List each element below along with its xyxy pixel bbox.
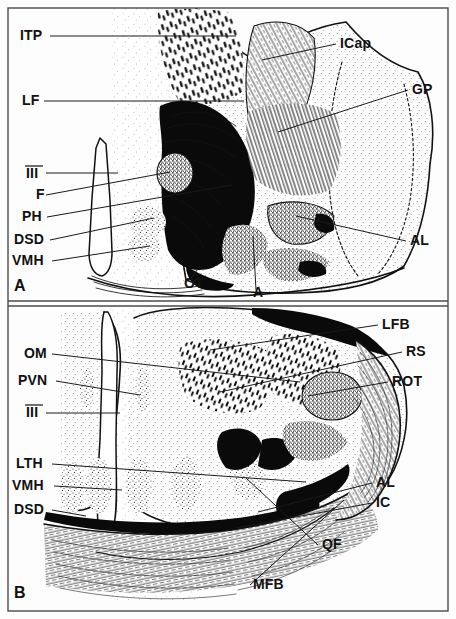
label-rs: RS (406, 343, 426, 359)
label-lfb: LFB (382, 316, 410, 332)
label-a-arcuate: A (253, 284, 263, 300)
panel-b-lth-medial (171, 456, 201, 512)
label-qf: QF (322, 536, 342, 552)
panel-label-a: A (14, 277, 26, 294)
panel-a-lateral-fiber-fan (246, 103, 341, 195)
label-dsd-a: DSD (14, 231, 44, 247)
label-dsd-b: DSD (14, 501, 44, 517)
label-ot: OT (184, 275, 204, 291)
neuroanatomy-figure: ITP LF III F PH DSD VMH ICap GP AL OT A … (0, 0, 456, 619)
label-icap: ICap (340, 35, 371, 51)
label-iii-b: III (26, 404, 38, 420)
label-lth: LTH (16, 455, 43, 471)
label-al-a: AL (410, 232, 429, 248)
panel-b-pvn-left (80, 368, 94, 408)
label-vmh-a: VMH (12, 252, 44, 268)
panel-b-pvn-right (135, 368, 151, 412)
label-ph: PH (22, 208, 42, 224)
label-gp: GP (412, 81, 433, 97)
label-om: OM (24, 345, 47, 361)
label-pvn: PVN (18, 372, 47, 388)
label-mfb: MFB (253, 576, 284, 592)
panel-label-b: B (14, 584, 26, 601)
label-lf: LF (22, 92, 40, 108)
label-ic: IC (376, 494, 390, 510)
label-f: F (36, 186, 45, 202)
label-vmh-b: VMH (12, 477, 44, 493)
panel-b-vmh-right (126, 458, 152, 514)
label-iii-a: III (26, 165, 38, 181)
panel-a-dsd-nucleus (128, 234, 160, 262)
figure-root: ITP LF III F PH DSD VMH ICap GP AL OT A … (0, 0, 456, 619)
label-rot: ROT (392, 373, 422, 389)
label-itp: ITP (20, 27, 42, 43)
label-al-b: AL (376, 474, 395, 490)
